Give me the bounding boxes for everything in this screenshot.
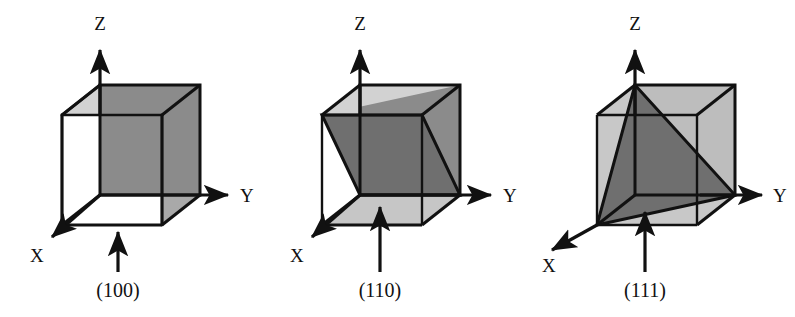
panel-110: Z Y X (110) <box>265 0 530 317</box>
miller-index-figure: Z Y X (100) <box>0 0 795 317</box>
axis-x-line <box>552 225 597 250</box>
panel-100: Z Y X (100) <box>0 0 265 317</box>
axis-x-line <box>52 195 100 237</box>
axis-label-x: X <box>30 245 44 266</box>
panel-111: Z Y X (111) <box>530 0 795 317</box>
axis-label-x: X <box>290 245 304 266</box>
axis-label-x: X <box>542 255 556 276</box>
axis-label-z: Z <box>94 13 106 34</box>
axis-label-z: Z <box>354 13 366 34</box>
plane-label-110: (110) <box>359 279 402 302</box>
axis-label-y: Y <box>240 185 254 206</box>
axis-label-y: Y <box>773 185 787 206</box>
axis-label-z: Z <box>629 13 641 34</box>
plane-label-100: (100) <box>96 279 139 302</box>
axis-label-y: Y <box>503 185 517 206</box>
plane-label-111: (111) <box>624 279 666 302</box>
plane-100-face <box>100 85 200 195</box>
